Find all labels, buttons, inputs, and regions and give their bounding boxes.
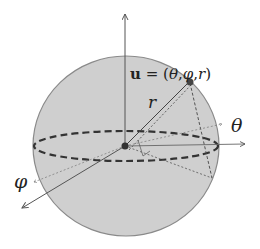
phi-axis-label: φ — [14, 170, 28, 192]
point-label: u = (θ,φ,r) — [130, 65, 211, 83]
origin-point — [122, 143, 129, 150]
theta-axis-label: θ — [231, 114, 243, 136]
spherical-coordinates-diagram: u = (θ,φ,r) r θ φ — [0, 0, 260, 249]
radius-label: r — [148, 92, 157, 112]
